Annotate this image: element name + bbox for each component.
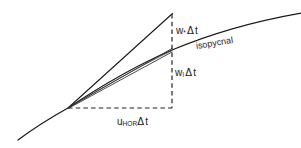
label-w-star-subscript: * bbox=[183, 29, 186, 36]
label-w-star-delta: Δ bbox=[187, 25, 194, 36]
label-w-iso-subscript: I bbox=[182, 71, 184, 78]
isopycnal-diagram-figure: w*Δt wIΔt uHORΔt isopycnal bbox=[0, 0, 301, 148]
label-w-iso-delta-t: wIΔt bbox=[175, 63, 196, 79]
label-u-hor-t: t bbox=[145, 116, 148, 127]
label-w-star-delta-t: w*Δt bbox=[176, 21, 198, 37]
label-u-hor-subscript: HOR bbox=[123, 120, 138, 127]
label-u-hor-delta: Δ bbox=[137, 116, 144, 127]
diagram-canvas bbox=[0, 0, 301, 148]
label-u-hor-delta-t: uHORΔt bbox=[117, 112, 148, 128]
label-w-iso-delta: Δ bbox=[185, 67, 192, 78]
label-w-iso-t: t bbox=[193, 67, 196, 78]
label-w-star-t: t bbox=[195, 25, 198, 36]
